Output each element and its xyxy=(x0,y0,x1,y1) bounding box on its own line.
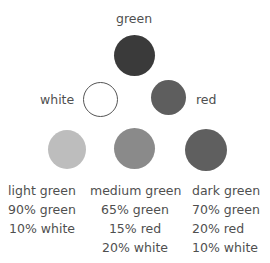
swatch-medium-green xyxy=(114,128,155,169)
swatch-red xyxy=(151,80,186,115)
mix-line: 20% red xyxy=(192,219,264,238)
caption-dark-green: dark green 70% green 20% red 10% white xyxy=(192,181,264,257)
caption-light-green: light green 90% green 10% white xyxy=(2,181,82,238)
swatch-green xyxy=(114,35,155,76)
mix-line: 20% white xyxy=(90,238,180,257)
label-red: red xyxy=(196,91,217,108)
mix-line: 90% green xyxy=(2,200,82,219)
swatch-light-green xyxy=(48,130,86,169)
swatch-white xyxy=(83,82,118,117)
mix-name: medium green xyxy=(90,181,180,200)
mix-line: 10% white xyxy=(192,238,264,257)
mix-line: 15% red xyxy=(90,219,180,238)
mix-name: light green xyxy=(2,181,82,200)
label-green: green xyxy=(116,10,152,27)
label-white: white xyxy=(40,91,74,108)
caption-medium-green: medium green 65% green 15% red 20% white xyxy=(90,181,180,257)
mix-line: 70% green xyxy=(192,200,264,219)
mix-line: 65% green xyxy=(90,200,180,219)
mix-line: 10% white xyxy=(2,219,82,238)
mix-name: dark green xyxy=(192,181,264,200)
swatch-dark-green xyxy=(185,129,227,171)
